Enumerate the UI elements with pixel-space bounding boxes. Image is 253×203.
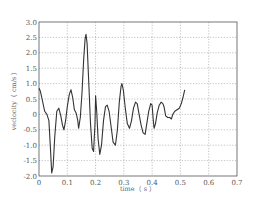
x-tick-label: 0.7 — [231, 179, 242, 187]
y-tick-label: 2.0 — [26, 49, 37, 57]
y-tick-label: -2.0 — [24, 173, 38, 181]
y-tick-label: -0.5 — [24, 126, 38, 134]
y-tick-label: 2.5 — [26, 34, 37, 42]
y-tick-label: 3.0 — [26, 19, 37, 27]
x-tick-label: 0.2 — [90, 179, 101, 187]
x-axis-label: time（ s ） — [120, 185, 156, 193]
y-tick-label: -1.5 — [24, 157, 38, 165]
y-tick-label: 0.5 — [26, 96, 37, 104]
y-tick-label: 0 — [33, 111, 37, 119]
y-axis-label: veclocity（ cm/s ） — [10, 68, 18, 132]
y-axis-ticks: 3.02.52.01.51.00.50-0.5-1.0-1.5-2.0 — [24, 19, 38, 181]
velocity-line — [39, 34, 185, 173]
x-tick-label: 0 — [37, 179, 41, 187]
y-tick-label: 1.0 — [26, 80, 37, 88]
x-tick-label: 0.1 — [62, 179, 73, 187]
x-tick-label: 0.5 — [175, 179, 186, 187]
y-tick-label: -1.0 — [24, 142, 38, 150]
velocity-time-chart: 00.10.20.30.40.50.60.7 3.02.52.01.51.00.… — [0, 0, 253, 203]
x-tick-label: 0.6 — [203, 179, 215, 187]
y-tick-label: 1.5 — [26, 65, 37, 73]
